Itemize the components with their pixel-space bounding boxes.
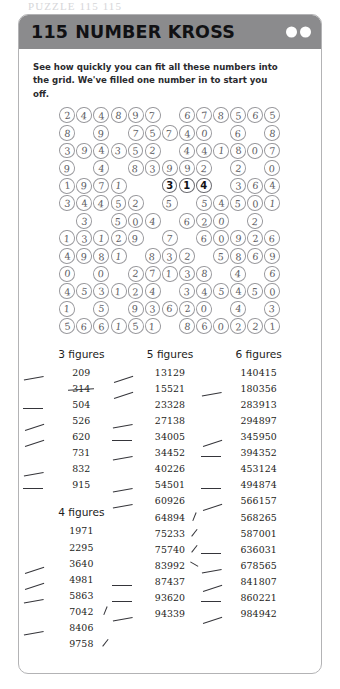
number-list-item[interactable]: 13129 xyxy=(126,365,215,381)
grid-cell-digit[interactable]: 2 xyxy=(59,107,76,125)
number-list-item[interactable]: 83992 xyxy=(126,558,215,574)
grid-cell-digit[interactable]: 6 xyxy=(93,318,110,336)
grid-cell-digit[interactable]: 5 xyxy=(196,195,213,213)
grid-cell-digit[interactable]: 4 xyxy=(230,300,247,318)
number-list-item[interactable]: 34005 xyxy=(126,429,215,445)
number-list-item[interactable]: 587001 xyxy=(214,526,303,542)
grid-cell-digit[interactable]: 5 xyxy=(230,195,247,213)
grid-cell-empty[interactable] xyxy=(247,265,264,283)
grid-cell-digit[interactable]: 6 xyxy=(264,265,281,283)
grid-cell-digit[interactable]: 4 xyxy=(93,160,110,178)
grid-cell-digit[interactable]: 1 xyxy=(144,318,161,336)
grid-cell-digit[interactable]: 3 xyxy=(144,300,161,318)
number-list-item[interactable]: 34452 xyxy=(126,445,215,461)
number-list-item[interactable]: 94339 xyxy=(126,606,215,622)
number-list-item[interactable]: 8406 xyxy=(37,620,126,636)
grid-cell-digit[interactable]: 7 xyxy=(144,265,161,283)
grid-cell-digit[interactable]: 0 xyxy=(213,318,230,336)
grid-cell-digit[interactable]: 2 xyxy=(127,265,144,283)
grid-cell-digit[interactable]: 1 xyxy=(213,142,230,160)
grid-cell-digit[interactable]: 1 xyxy=(59,230,76,248)
grid-cell-empty[interactable] xyxy=(161,213,178,231)
grid-cell-digit[interactable]: 6 xyxy=(196,318,213,336)
grid-cell-digit[interactable]: 2 xyxy=(179,248,196,266)
grid-cell-digit[interactable]: 4 xyxy=(76,107,93,125)
number-list-item[interactable]: 345950 xyxy=(214,429,303,445)
grid-cell-digit[interactable]: 5 xyxy=(76,283,93,301)
grid-cell-digit[interactable]: 2 xyxy=(196,213,213,231)
grid-cell-digit[interactable]: 2 xyxy=(196,160,213,178)
grid-cell-digit[interactable]: 0 xyxy=(264,283,281,301)
number-list-item[interactable]: 494874 xyxy=(214,477,303,493)
grid-cell-empty[interactable] xyxy=(76,300,93,318)
number-list-item[interactable]: 27138 xyxy=(126,413,215,429)
number-list-item[interactable]: 180356 xyxy=(214,381,303,397)
grid-cell-digit[interactable]: 5 xyxy=(230,107,247,125)
grid-cell-digit[interactable]: 9 xyxy=(179,160,196,178)
grid-cell-digit[interactable]: 7 xyxy=(196,107,213,125)
grid-cell-digit[interactable]: 1 xyxy=(93,230,110,248)
grid-cell-digit[interactable]: 4 xyxy=(196,283,213,301)
grid-cell-empty[interactable] xyxy=(179,230,196,248)
grid-cell-digit[interactable]: 5 xyxy=(144,125,161,143)
number-list-item[interactable]: 860221 xyxy=(214,590,303,606)
grid-cell-digit[interactable]: 9 xyxy=(127,300,144,318)
grid-cell-digit[interactable]: 9 xyxy=(230,230,247,248)
grid-cell-empty[interactable] xyxy=(247,125,264,143)
grid-cell-digit[interactable]: 8 xyxy=(144,248,161,266)
grid-cell-empty[interactable] xyxy=(76,160,93,178)
number-list-item[interactable]: 568265 xyxy=(214,510,303,526)
grid-cell-digit[interactable]: 8 xyxy=(110,107,127,125)
grid-cell-digit[interactable]: 8 xyxy=(196,265,213,283)
grid-cell-digit[interactable]: 7 xyxy=(93,177,110,195)
grid-cell-digit[interactable]: 0 xyxy=(196,125,213,143)
number-list-item[interactable]: 64894 xyxy=(126,510,215,526)
number-list-item[interactable]: 526 xyxy=(37,413,126,429)
grid-cell-digit[interactable]: 4 xyxy=(230,265,247,283)
grid-cell-digit[interactable]: 5 xyxy=(264,107,281,125)
grid-cell-empty[interactable] xyxy=(127,177,144,195)
number-list-item[interactable]: 9758 xyxy=(37,636,126,652)
grid-cell-digit[interactable]: 1 xyxy=(264,318,281,336)
grid-cell-digit[interactable]: 6 xyxy=(196,230,213,248)
grid-cell-digit[interactable]: 1 xyxy=(110,177,127,195)
grid-cell-digit[interactable]: 3 xyxy=(93,283,110,301)
grid-cell-digit[interactable]: 8 xyxy=(230,248,247,266)
grid-cell-empty[interactable] xyxy=(196,248,213,266)
grid-cell-digit[interactable]: 2 xyxy=(144,142,161,160)
grid-cell-digit[interactable]: 9 xyxy=(127,230,144,248)
grid-cell-digit[interactable]: 3 xyxy=(76,230,93,248)
number-list-item[interactable]: 1971 xyxy=(37,523,126,539)
grid-cell-digit[interactable]: 0 xyxy=(59,265,76,283)
grid-cell-digit[interactable]: 3 xyxy=(230,177,247,195)
grid-cell-digit[interactable]: 6 xyxy=(179,107,196,125)
grid-cell-digit[interactable]: 0 xyxy=(213,213,230,231)
grid-cell-empty[interactable] xyxy=(127,248,144,266)
grid-cell-digit[interactable]: 6 xyxy=(230,125,247,143)
grid-cell-digit[interactable]: 1 xyxy=(110,248,127,266)
grid-cell-digit[interactable]: 5 xyxy=(213,248,230,266)
grid-cell-empty[interactable] xyxy=(213,160,230,178)
grid-cell-digit[interactable]: 8 xyxy=(59,125,76,143)
grid-cell-digit[interactable]: 4 xyxy=(93,142,110,160)
grid-cell-empty[interactable] xyxy=(144,230,161,248)
grid-cell-digit[interactable]: 6 xyxy=(76,318,93,336)
grid-cell-digit[interactable]: 4 xyxy=(196,177,213,195)
grid-cell-empty[interactable] xyxy=(76,125,93,143)
grid-cell-digit[interactable]: 0 xyxy=(127,213,144,231)
grid-cell-digit[interactable]: 3 xyxy=(161,248,178,266)
grid-cell-digit[interactable]: 5 xyxy=(127,318,144,336)
grid-cell-digit[interactable]: 7 xyxy=(127,125,144,143)
grid-cell-digit[interactable]: 8 xyxy=(93,248,110,266)
grid-cell-digit[interactable]: 0 xyxy=(247,195,264,213)
number-list-item[interactable]: 678565 xyxy=(214,558,303,574)
grid-cell-digit[interactable]: 0 xyxy=(93,265,110,283)
number-list-item[interactable]: 40226 xyxy=(126,461,215,477)
grid-cell-digit[interactable]: 3 xyxy=(76,213,93,231)
grid-cell-empty[interactable] xyxy=(213,125,230,143)
grid-cell-empty[interactable] xyxy=(144,177,161,195)
grid-cell-digit[interactable]: 2 xyxy=(230,318,247,336)
grid-cell-empty[interactable] xyxy=(247,300,264,318)
grid-cell-digit[interactable]: 3 xyxy=(179,265,196,283)
puzzle-grid[interactable]: 2448976785658975740683943524418079483992… xyxy=(59,107,281,336)
